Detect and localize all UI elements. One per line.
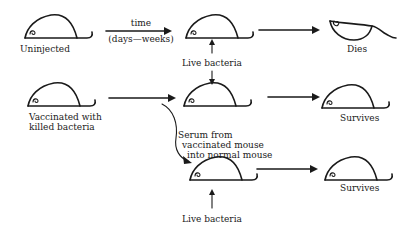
label-vaccinated-line2: killed bacteria	[29, 122, 95, 132]
arrow-right-icon	[257, 165, 318, 173]
label-live-bacteria-bottom: Live bacteria	[182, 214, 242, 224]
arrow-up-icon	[209, 189, 215, 208]
arrow-up-icon	[209, 39, 215, 53]
label-days-weeks: (days—weeks)	[106, 34, 176, 44]
immunization-diagram: Uninjected time (days—weeks) Live bacter…	[0, 0, 411, 230]
label-time: time	[126, 18, 156, 28]
label-survives-row3: Survives	[340, 183, 379, 193]
mouse-icon	[25, 15, 92, 38]
label-dies: Dies	[347, 44, 367, 54]
arrow-right-icon	[268, 93, 320, 101]
mouse-icon	[190, 157, 257, 180]
label-survives-row2: Survives	[340, 113, 379, 123]
arrow-right-icon	[109, 94, 176, 102]
arrow-right-icon	[259, 26, 320, 34]
label-serum-line1: Serum from	[178, 130, 233, 140]
mouse-icon	[28, 83, 95, 106]
mouse-icon	[325, 157, 392, 180]
label-vaccinated-line1: Vaccinated with	[29, 112, 102, 122]
mouse-icon	[322, 85, 389, 108]
dead-mouse-icon	[330, 21, 396, 40]
label-serum-line2: vaccinated mouse	[182, 140, 264, 150]
mouse-icon	[184, 83, 251, 106]
label-uninjected: Uninjected	[20, 44, 70, 54]
label-serum-line3: into normal mouse	[187, 150, 272, 160]
mouse-icon	[186, 15, 253, 38]
label-live-bacteria-top: Live bacteria	[182, 58, 242, 68]
